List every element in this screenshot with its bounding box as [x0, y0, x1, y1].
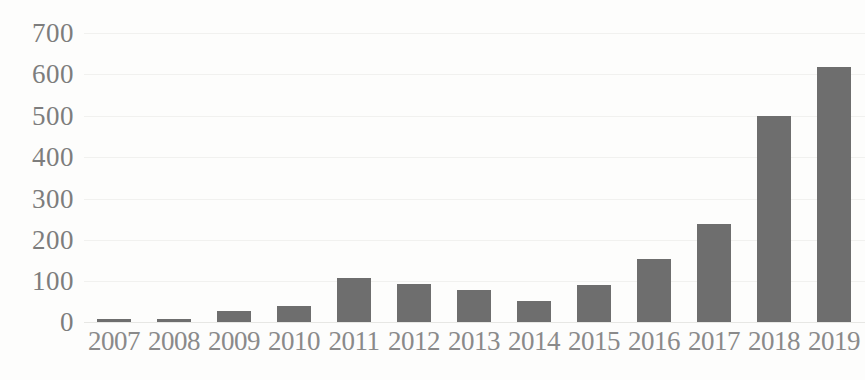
bar-slot	[444, 32, 504, 322]
bar-chart: 700 600 500 400 300 200 100 0	[0, 0, 865, 380]
x-tick-label-2010: 2010	[264, 328, 324, 355]
bar-slot	[744, 32, 804, 322]
y-tick-label: 400	[32, 144, 74, 171]
x-tick-label-2014: 2014	[504, 328, 564, 355]
bar-2015[interactable]	[577, 285, 611, 322]
bar-slot	[564, 32, 624, 322]
x-tick-label-2012: 2012	[384, 328, 444, 355]
x-tick-label-2017: 2017	[684, 328, 744, 355]
bar-slot	[84, 32, 144, 322]
bar-slot	[144, 32, 204, 322]
bar-2012[interactable]	[397, 284, 431, 322]
x-tick-label-2013: 2013	[444, 328, 504, 355]
bar-slot	[504, 32, 564, 322]
x-tick-label-2015: 2015	[564, 328, 624, 355]
x-tick-label-2019: 2019	[804, 328, 864, 355]
x-tick-label-2016: 2016	[624, 328, 684, 355]
x-tick-label-2011: 2011	[324, 328, 384, 355]
bar-slot	[684, 32, 744, 322]
y-tick-label: 700	[32, 20, 74, 47]
plot-area	[84, 0, 865, 380]
y-tick-label: 0	[60, 309, 74, 336]
bar-2019[interactable]	[817, 67, 851, 322]
bar-2008[interactable]	[157, 319, 191, 322]
bar-slot	[324, 32, 384, 322]
bar-slot	[264, 32, 324, 322]
bar-2014[interactable]	[517, 301, 551, 322]
bar-2007[interactable]	[97, 319, 131, 322]
y-tick-label: 600	[32, 61, 74, 88]
y-tick-label: 300	[32, 186, 74, 213]
y-tick-label: 500	[32, 103, 74, 130]
bar-slot	[804, 32, 864, 322]
bar-slot	[384, 32, 444, 322]
x-tick-label-2007: 2007	[84, 328, 144, 355]
x-axis: 2007 2008 2009 2010 2011 2012 2013 2014 …	[84, 326, 865, 380]
bar-slot	[624, 32, 684, 322]
x-tick-label-2008: 2008	[144, 328, 204, 355]
x-tick-label-2018: 2018	[744, 328, 804, 355]
bar-2013[interactable]	[457, 290, 491, 322]
bar-slot	[204, 32, 264, 322]
y-tick-label: 200	[32, 227, 74, 254]
y-tick-label: 100	[32, 268, 74, 295]
bar-2011[interactable]	[337, 278, 371, 322]
bar-2016[interactable]	[637, 259, 671, 322]
bar-2010[interactable]	[277, 306, 311, 322]
bar-2017[interactable]	[697, 224, 731, 322]
bar-2009[interactable]	[217, 311, 251, 322]
bars-layer	[84, 0, 865, 380]
y-axis: 700 600 500 400 300 200 100 0	[0, 0, 80, 380]
x-tick-label-2009: 2009	[204, 328, 264, 355]
bar-2018[interactable]	[757, 116, 791, 322]
